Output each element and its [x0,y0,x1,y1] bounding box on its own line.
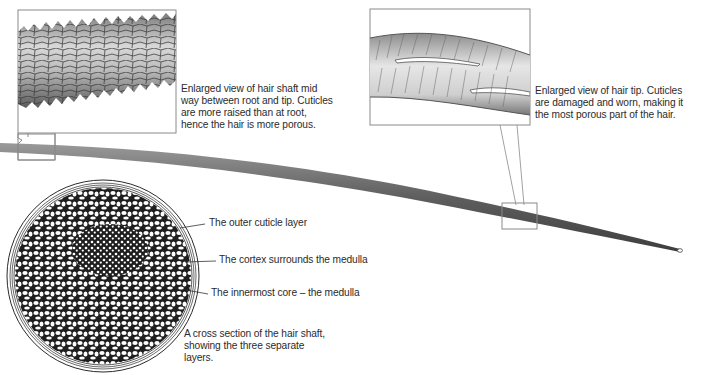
caption-line: A cross section of the hair shaft, [184,328,325,340]
caption-line: the most porous part of the hair. [535,109,683,121]
cortex-label: The cortex surrounds the medulla [219,254,368,266]
caption-line: are more raised than at root, [181,107,333,119]
cuticle-label: The outer cuticle layer [209,217,307,229]
cross-section-caption: A cross section of the hair shaft, showi… [184,328,325,364]
mid-shaft-callout [18,10,176,160]
caption-line: layers. [184,352,325,364]
caption-line: are damaged and worn, making it [535,97,683,109]
caption-line: Enlarged view of hair tip. Cuticles [535,85,683,97]
caption-line: hence the hair is more porous. [181,119,333,131]
mid-shaft-caption: Enlarged view of hair shaft mid way betw… [181,83,333,131]
caption-line: showing the three separate [184,340,325,352]
tip-caption: Enlarged view of hair tip. Cuticles are … [535,85,683,121]
caption-line: way between root and tip. Cuticles [181,95,333,107]
medulla-label: The innermost core – the medulla [211,287,360,299]
hair-diagram-artwork [0,0,703,375]
caption-line: Enlarged view of hair shaft mid [181,83,333,95]
